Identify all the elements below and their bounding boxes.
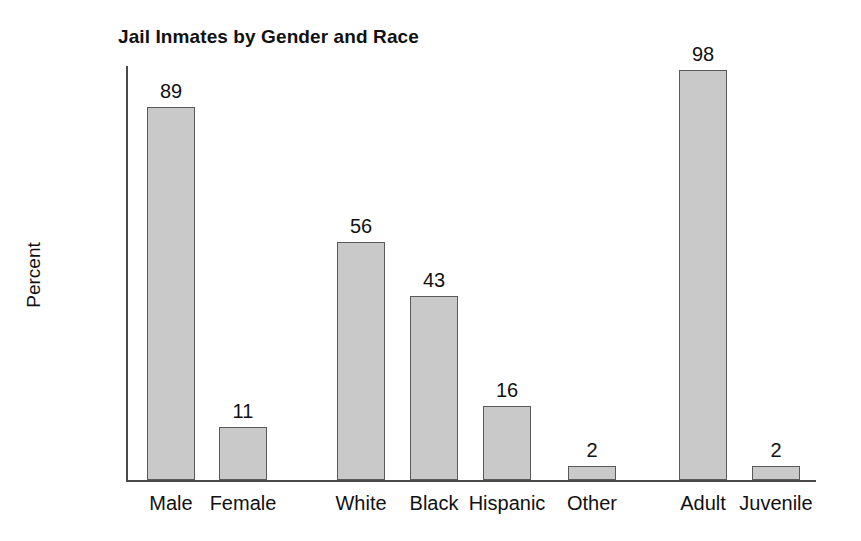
x-axis-category-label: Female <box>183 492 303 514</box>
bar-value-label: 89 <box>121 81 221 101</box>
bars-layer: 89Male11Female56White43Black16Hispanic2O… <box>0 0 861 541</box>
x-axis-category-label: Other <box>532 492 652 514</box>
bar-value-label: 16 <box>457 380 557 400</box>
bar <box>219 427 267 480</box>
bar-value-label: 98 <box>653 44 753 64</box>
bar <box>752 466 800 480</box>
bar <box>483 406 531 480</box>
bar-chart: Jail Inmates by Gender and Race Percent … <box>0 0 861 541</box>
bar-value-label: 2 <box>726 440 826 460</box>
x-axis-category-label: Juvenile <box>716 492 836 514</box>
bar-value-label: 11 <box>193 401 293 421</box>
bar <box>147 107 195 480</box>
bar-value-label: 56 <box>311 216 411 236</box>
bar <box>337 242 385 480</box>
bar <box>410 296 458 481</box>
bar <box>568 466 616 480</box>
bar-value-label: 2 <box>542 440 642 460</box>
bar-value-label: 43 <box>384 270 484 290</box>
bar <box>679 70 727 480</box>
